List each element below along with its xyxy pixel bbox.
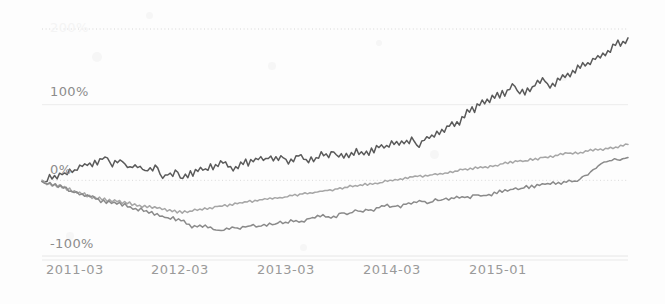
y-tick-label-100: 100% (50, 84, 89, 99)
x-tick-label-3: 2014-03 (363, 262, 421, 277)
series-line-series-mid (42, 157, 628, 230)
y-tick-label-0: 0% (50, 162, 71, 177)
x-tick-label-1: 2012-03 (151, 262, 209, 277)
y-tick-label-minus-100: -100% (50, 236, 94, 251)
x-tick-label-4: 2015-01 (469, 262, 527, 277)
series-line-series-dark (42, 38, 628, 182)
x-tick-label-0: 2011-03 (46, 262, 104, 277)
y-tick-label-200: 200% (50, 20, 89, 35)
x-axis: 2011-03 2012-03 2013-03 2014-03 2015-01 (0, 262, 665, 286)
x-tick-label-2: 2013-03 (257, 262, 315, 277)
series-paths (42, 38, 628, 231)
gridlines (42, 29, 628, 260)
line-chart: 200% 100% 0% -100% 2011-03 2012-03 2013-… (0, 0, 665, 304)
plot-area (0, 0, 665, 304)
